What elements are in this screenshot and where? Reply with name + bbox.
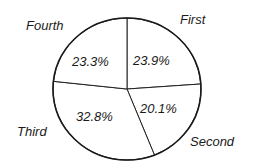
value-label-fourth: 23.3% bbox=[71, 54, 109, 69]
pie-chart: 23.9% 20.1% 32.8% 23.3% First Second Thi… bbox=[0, 0, 256, 168]
value-label-third: 32.8% bbox=[76, 109, 113, 124]
category-label-fourth: Fourth bbox=[26, 18, 64, 33]
value-label-second: 20.1% bbox=[139, 101, 177, 116]
category-label-first: First bbox=[180, 12, 207, 27]
category-label-second: Second bbox=[190, 134, 235, 149]
value-label-first: 23.9% bbox=[132, 53, 170, 68]
category-label-third: Third bbox=[17, 124, 47, 139]
